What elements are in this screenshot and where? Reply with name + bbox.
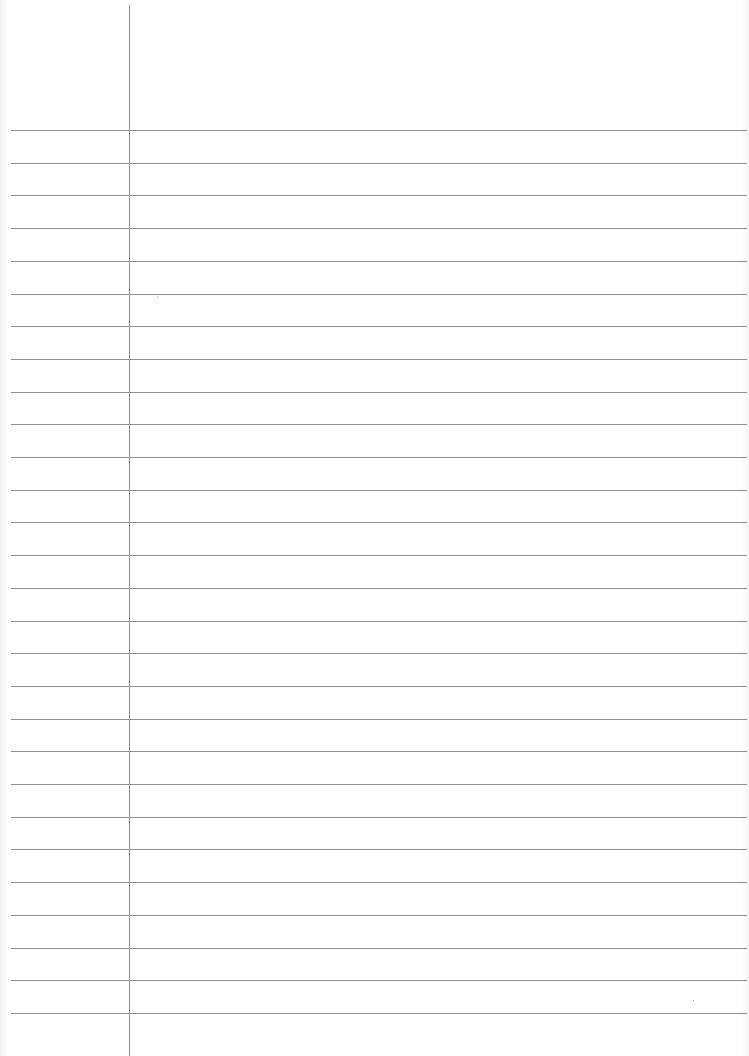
ruled-line [11, 261, 747, 262]
ruled-line [11, 719, 747, 720]
ruled-line [11, 817, 747, 818]
ruled-line [11, 294, 747, 295]
ruled-line [11, 359, 747, 360]
ruled-line [11, 751, 747, 752]
ruled-line [11, 948, 747, 949]
ruled-line [11, 228, 747, 229]
ruled-line [11, 555, 747, 556]
ruled-line [11, 163, 747, 164]
ruled-line [11, 621, 747, 622]
ruled-line [11, 130, 747, 131]
ruled-line [11, 784, 747, 785]
ruled-line [11, 326, 747, 327]
ruled-line [11, 424, 747, 425]
ruled-line [11, 653, 747, 654]
ruled-line [11, 849, 747, 850]
ruled-line [11, 980, 747, 981]
ruled-page [0, 0, 749, 1056]
ruled-line [11, 588, 747, 589]
ruled-line [11, 882, 747, 883]
ruled-line [11, 915, 747, 916]
ruled-line [11, 195, 747, 196]
ruled-line [11, 1013, 747, 1014]
ruled-line [11, 457, 747, 458]
ruled-line [11, 392, 747, 393]
paper-speck [157, 297, 158, 298]
ruled-line [11, 522, 747, 523]
paper-speck [693, 1000, 694, 1001]
ruled-line [11, 490, 747, 491]
ruled-line [11, 686, 747, 687]
